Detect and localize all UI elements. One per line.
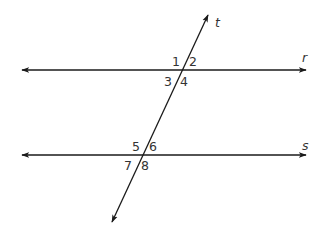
angle-label-2: 2 xyxy=(189,54,197,69)
angle-label-8: 8 xyxy=(141,158,149,173)
angle-label-7: 7 xyxy=(124,158,132,173)
line-label-s: s xyxy=(302,138,309,153)
angle-label-1: 1 xyxy=(172,54,180,69)
parallel-lines-transversal-diagram: r s t 1 2 3 4 5 6 7 8 xyxy=(0,0,324,233)
angle-label-5: 5 xyxy=(132,139,140,154)
transversal-t xyxy=(112,15,208,222)
line-label-r: r xyxy=(302,50,308,65)
angle-label-6: 6 xyxy=(149,139,157,154)
line-label-t: t xyxy=(215,15,221,30)
angle-label-4: 4 xyxy=(180,74,188,89)
angle-label-3: 3 xyxy=(164,74,172,89)
